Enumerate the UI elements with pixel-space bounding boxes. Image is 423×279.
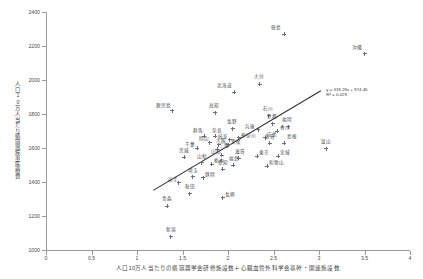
data-point xyxy=(233,91,236,94)
data-point-label: 北海道 xyxy=(217,83,232,88)
data-point xyxy=(188,192,191,195)
x-tick-label: 0.5 xyxy=(77,255,107,261)
x-tick-label: 0 xyxy=(31,255,61,261)
data-point xyxy=(258,83,261,86)
data-point-label: 千葉 xyxy=(185,142,195,147)
data-point-label: 佐賀 xyxy=(265,134,275,139)
data-point-label: 長野 xyxy=(227,119,237,124)
plot-area: 徳島沖縄大分北海道鹿児島高知石川京都福岡長野兵庫香川群馬奈良神奈川岐阜広島岡山大… xyxy=(46,12,410,250)
x-tick-label: 2.5 xyxy=(259,255,289,261)
regression-r2-text: R² = 0.429 xyxy=(326,92,367,97)
data-point xyxy=(257,128,260,131)
data-point-label: 大分 xyxy=(254,74,264,79)
data-point xyxy=(221,168,224,171)
data-point-label: 高知 xyxy=(209,103,219,108)
regression-equation-label: y = 318.28x + 974.46 R² = 0.429 xyxy=(326,87,367,98)
data-point xyxy=(214,111,217,114)
data-point-label: 茨城 xyxy=(179,148,189,153)
y-tick-label: 2400 xyxy=(0,9,40,15)
data-point xyxy=(268,142,271,145)
data-point-label: 香川 xyxy=(280,125,290,130)
data-point-label: 埼玉 xyxy=(188,168,198,173)
data-point-label: 東京 xyxy=(259,150,269,155)
y-tick-label: 1000 xyxy=(0,247,40,253)
data-point-label: 愛媛 xyxy=(231,139,241,144)
x-tick-label: 3 xyxy=(304,255,334,261)
data-point-label: 山形 xyxy=(211,149,221,154)
data-point-label: 三重 xyxy=(219,143,229,148)
data-point xyxy=(232,164,235,167)
data-point-label: 秋田 xyxy=(185,184,195,189)
data-point-label: 山梨 xyxy=(197,154,207,159)
data-point xyxy=(325,147,328,150)
data-point-label: 長崎 xyxy=(225,192,235,197)
data-point-label: 滋賀 xyxy=(235,149,245,154)
data-point-label: 島根 xyxy=(287,134,297,139)
data-point-label: 兵庫 xyxy=(245,124,255,129)
data-point xyxy=(200,161,203,164)
data-point-label: 神奈川 xyxy=(241,133,256,138)
x-axis-title: 人口10万人当たりの循環器学会研修施設数＋心臓血管外科学会基幹・関連施設数 xyxy=(46,264,410,272)
data-point xyxy=(231,127,234,130)
data-point xyxy=(283,142,286,145)
data-point-label: 石川 xyxy=(263,106,273,111)
data-point-label: 奈良 xyxy=(212,128,222,133)
data-point xyxy=(166,205,169,208)
data-point-label: 宮城 xyxy=(280,150,290,155)
x-tick-label: 3.5 xyxy=(350,255,380,261)
data-point-label: 岩手 xyxy=(168,177,178,182)
data-point xyxy=(271,122,274,125)
y-axis-title: 人口10万人当たり循環器疾患医療費 xyxy=(9,40,21,220)
data-point-label: 岡山 xyxy=(199,136,209,141)
data-point-label: 福島 xyxy=(229,156,239,161)
data-point-label: 静岡 xyxy=(205,172,215,177)
data-point-label: 鹿児島 xyxy=(156,103,171,108)
data-point-label: 新潟 xyxy=(166,227,176,232)
data-point-label: 愛知 xyxy=(218,160,228,165)
data-point xyxy=(208,141,211,144)
x-tick-label: 4 xyxy=(395,255,423,261)
data-point xyxy=(191,175,194,178)
scatter-chart: 10001200140016001800200022002400 00.511.… xyxy=(0,0,423,279)
data-point-label: 富山 xyxy=(321,139,331,144)
data-point-label: 福岡 xyxy=(282,117,292,122)
data-point xyxy=(196,147,199,150)
x-tick-label: 1.5 xyxy=(168,255,198,261)
data-point xyxy=(363,52,366,55)
data-point-label: 京都 xyxy=(267,114,277,119)
x-tick-label: 2 xyxy=(213,255,243,261)
data-point xyxy=(171,109,174,112)
data-point-label: 群馬 xyxy=(193,128,203,133)
data-point xyxy=(169,235,172,238)
data-point-label: 青森 xyxy=(162,196,172,201)
x-tick-label: 1 xyxy=(122,255,152,261)
data-point xyxy=(183,156,186,159)
data-point-label: 徳島 xyxy=(271,25,281,30)
data-point-label: 和歌山 xyxy=(269,160,284,165)
data-point-label: 大阪 xyxy=(216,138,226,143)
data-point xyxy=(283,33,286,36)
data-point-label: 沖縄 xyxy=(352,45,362,50)
